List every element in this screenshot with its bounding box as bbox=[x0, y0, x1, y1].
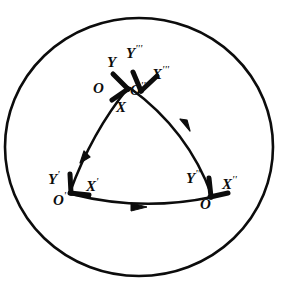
label-axis-X: X bbox=[116, 99, 126, 115]
label-origin-O-triple-prime: O''' bbox=[130, 82, 148, 98]
coordinate-frame-apex-unprimed bbox=[112, 74, 131, 100]
label-axis-Y-triple-prime: Y''' bbox=[126, 45, 142, 61]
label-axis-Y-double-prime: Y'' bbox=[186, 170, 200, 186]
axis-Y bbox=[113, 74, 128, 89]
arrowhead-left-arc-icon bbox=[80, 151, 90, 163]
label-axis-X-prime: X' bbox=[86, 178, 98, 194]
label-axis-X-triple-prime: X''' bbox=[152, 66, 169, 82]
axis-Y-prime bbox=[70, 174, 71, 193]
label-axis-Y: Y bbox=[107, 54, 116, 70]
label-origin-O-double-prime: O'' bbox=[200, 196, 216, 212]
geometry-figure: O X Y O''' X''' Y''' O' X' Y' O'' X'' Y'… bbox=[0, 0, 281, 292]
label-axis-X-double-prime: X'' bbox=[222, 176, 237, 192]
label-origin-O: O bbox=[93, 80, 104, 96]
label-axis-Y-prime: Y' bbox=[48, 171, 60, 187]
arc-lower-left-to-lower-right bbox=[71, 194, 212, 204]
label-origin-O-prime: O' bbox=[53, 192, 66, 208]
origin-O-prime-marker bbox=[68, 190, 73, 195]
arrowhead-right-arc-icon bbox=[180, 119, 190, 131]
